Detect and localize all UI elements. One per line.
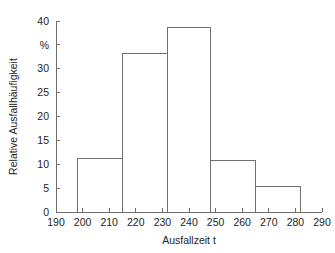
y-tick-label: 40 [37,15,49,27]
x-tick-label: 230 [154,216,172,228]
histogram-bar [77,159,122,212]
x-axis-title: Ausfallzeit t [162,234,216,246]
x-tick-label: 280 [287,216,305,228]
x-tick-label: 250 [207,216,225,228]
y-axis: 051015202530%40 [37,15,60,218]
bars-group [77,27,300,212]
histogram-bar [256,187,301,212]
x-tick-label: 260 [233,216,251,228]
y-tick-label: % [40,39,49,51]
chart-canvas: 190200210220230240250260270280290 051015… [0,0,335,253]
y-tick-label: 25 [37,86,49,98]
x-tick-label: 270 [260,216,278,228]
x-tick-label: 210 [100,216,118,228]
x-tick-label: 200 [74,216,92,228]
y-tick-label: 30 [37,62,49,74]
histogram-bar [168,27,211,212]
y-tick-label: 15 [37,134,49,146]
x-tick-label: 290 [313,216,331,228]
y-axis-title: Relative Ausfallhäufigkeit [7,58,19,175]
x-tick-label: 190 [47,216,65,228]
x-tick-label: 240 [180,216,198,228]
y-tick-label: 5 [43,182,49,194]
histogram-figure: 190200210220230240250260270280290 051015… [0,0,335,253]
histogram-bar [123,53,168,212]
y-tick-label: 0 [43,206,49,218]
x-tick-label: 220 [127,216,145,228]
y-tick-label: 10 [37,158,49,170]
histogram-bar [210,160,255,212]
y-tick-label: 20 [37,110,49,122]
